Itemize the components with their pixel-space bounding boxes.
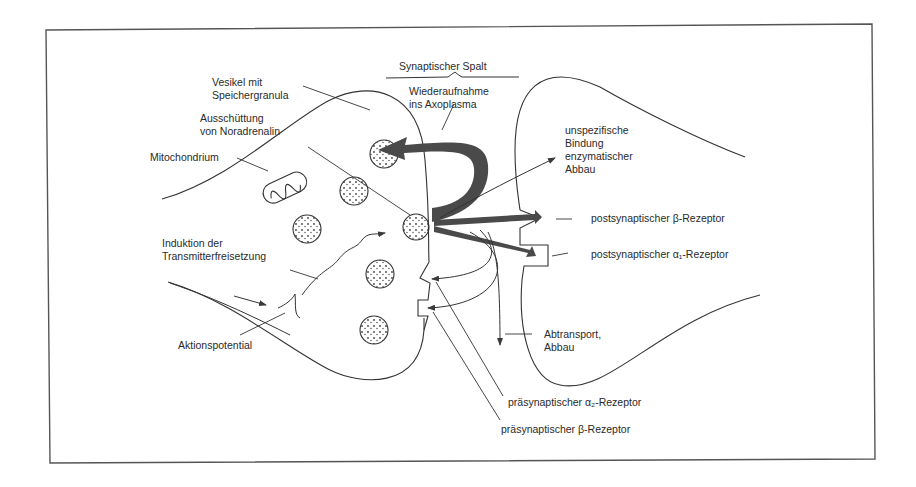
vesicle-icon	[340, 177, 368, 205]
label-release: Ausschüttung von Noradrenalin	[200, 112, 280, 138]
leader-mitochondrion	[237, 158, 268, 171]
arrow-to-post-alpha1-icon	[434, 226, 536, 257]
vesicle-icon	[366, 260, 394, 288]
label-induction: Induktion der Transmitterfreisetzung	[162, 237, 266, 263]
leader-action-potential	[240, 313, 285, 335]
leader-pre-beta	[433, 312, 500, 420]
label-post-alpha1-receptor: postsynaptischer α₁-Rezeptor	[591, 248, 728, 261]
label-pre-alpha2-receptor: präsynaptischer α₂-Rezeptor	[508, 396, 641, 409]
label-synaptic-cleft: Synaptischer Spalt	[399, 60, 487, 73]
arrow-transport-icon	[488, 232, 500, 345]
vesicle-icon	[360, 316, 388, 344]
label-transport: Abtransport, Abbau	[544, 328, 601, 354]
synapse-diagram	[0, 0, 916, 487]
action-potential-arrow-icon	[234, 296, 266, 305]
label-action-potential: Aktionspotential	[178, 339, 252, 352]
label-mitochondrion: Mitochondrium	[150, 151, 219, 164]
leader-post-alpha1	[552, 253, 568, 256]
diagram-canvas: Synaptischer Spalt Vesikel mit Speicherg…	[0, 0, 916, 487]
leader-vesicle	[303, 86, 370, 110]
leader-pre-alpha2	[436, 282, 503, 396]
label-pre-beta-receptor: präsynaptischer β-Rezeptor	[501, 423, 630, 436]
label-post-beta-receptor: postsynaptischer β-Rezeptor	[591, 212, 725, 225]
leader-induction	[290, 270, 318, 279]
fusing-vesicle-icon	[403, 214, 429, 240]
label-unspecific-binding: unspezifische Bindung enzymatischer Abba…	[565, 124, 633, 176]
mitochondrion-icon	[260, 169, 310, 207]
reuptake-arrow-icon	[378, 137, 488, 222]
vesicle-icon	[293, 215, 321, 243]
label-vesicle: Vesikel mit Speichergranula	[212, 76, 288, 102]
label-reuptake: Wiederaufnahme ins Axoplasma	[409, 85, 489, 111]
